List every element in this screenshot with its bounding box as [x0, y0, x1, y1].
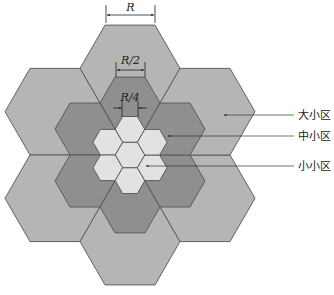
cell-type-label: 中小区 [298, 130, 331, 143]
cell-type-label: 小小区 [298, 160, 331, 173]
dimension-label: R [125, 1, 134, 14]
dimension-label: R/2 [120, 54, 140, 67]
dimension-label: R/4 [120, 91, 140, 104]
hexagonal-cell-diagram: RR/2R/4 大小区中小区小小区 [0, 0, 334, 295]
cell-type-label: 大小区 [298, 108, 331, 122]
